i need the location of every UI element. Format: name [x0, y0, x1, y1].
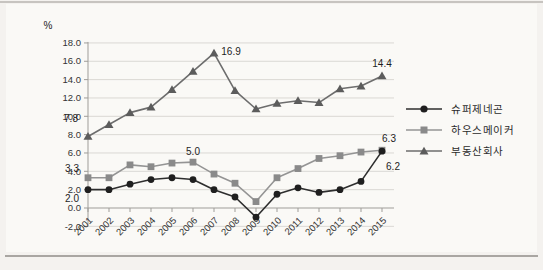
circle-marker — [379, 148, 386, 155]
point-value-label: 3.3 — [65, 163, 79, 174]
y-tick-label: 16.0 — [63, 55, 82, 66]
circle-marker-icon — [406, 103, 442, 115]
square-marker — [358, 149, 365, 156]
chart-legend: 슈퍼제네곤하우스메이커부동산회사 — [406, 98, 514, 161]
point-value-label: 5.0 — [186, 146, 200, 157]
triangle-marker — [84, 132, 93, 140]
circle-marker — [358, 178, 365, 185]
point-value-label: 6.2 — [386, 161, 400, 172]
x-tick-label-2011: 2011 — [282, 215, 304, 237]
square-marker — [169, 160, 176, 167]
square-marker — [337, 152, 344, 159]
square-marker — [148, 163, 155, 170]
legend-label: 하우스메이커 — [451, 122, 514, 137]
square-marker — [190, 159, 197, 166]
triangle-marker — [210, 49, 219, 57]
legend-label: 부동산회사 — [451, 143, 504, 158]
square-marker — [232, 180, 239, 187]
circle-marker — [295, 184, 302, 191]
circle-marker — [337, 186, 344, 193]
square-marker — [106, 174, 113, 181]
y-tick-label: 8.0 — [68, 129, 81, 140]
circle-marker — [253, 214, 260, 221]
y-tick-label: 0.0 — [68, 202, 81, 213]
triangle-marker — [357, 82, 366, 90]
square-marker — [211, 171, 218, 178]
square-marker — [253, 198, 260, 205]
triangle-marker — [231, 86, 240, 94]
square-marker — [127, 162, 134, 169]
circle-marker — [85, 186, 92, 193]
point-value-label: 6.3 — [382, 133, 396, 144]
square-marker-icon — [406, 124, 442, 136]
y-axis-unit-label: % — [44, 20, 53, 31]
series-line-triangle — [88, 53, 382, 136]
legend-item-circle: 슈퍼제네곤 — [406, 98, 514, 119]
point-value-label: 7.8 — [64, 113, 78, 124]
point-value-label: 14.4 — [372, 58, 392, 69]
circle-marker — [148, 176, 155, 183]
y-tick-label: 18.0 — [63, 37, 82, 48]
square-marker — [295, 165, 302, 172]
square-marker — [85, 174, 92, 181]
circle-marker — [274, 191, 281, 198]
legend-item-triangle: 부동산회사 — [406, 140, 514, 161]
y-tick-label: 6.0 — [68, 147, 81, 158]
legend-item-square: 하우스메이커 — [406, 119, 514, 140]
circle-marker — [127, 181, 134, 188]
circle-marker — [190, 176, 197, 183]
triangle-marker-icon — [406, 145, 442, 157]
square-marker — [274, 174, 281, 181]
square-marker — [316, 155, 323, 162]
circle-marker — [316, 189, 323, 196]
circle-marker — [169, 174, 176, 181]
circle-marker — [211, 186, 218, 193]
triangle-marker — [105, 120, 114, 128]
point-value-label: 2.0 — [65, 193, 79, 204]
circle-marker — [106, 186, 113, 193]
y-tick-label: 14.0 — [63, 74, 82, 85]
legend-label: 슈퍼제네곤 — [451, 101, 504, 116]
bottom-rule — [5, 255, 538, 257]
circle-marker — [232, 194, 239, 201]
point-value-label: 16.9 — [221, 46, 241, 57]
triangle-marker — [378, 72, 387, 80]
y-tick-label: 12.0 — [63, 92, 82, 103]
